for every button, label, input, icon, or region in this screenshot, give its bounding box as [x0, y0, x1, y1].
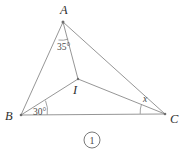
vertex-dot-c: [164, 113, 167, 116]
vertex-label-b: B: [5, 109, 13, 123]
geometry-figure: A B C I 35° 30° x 1: [0, 0, 186, 156]
angle-label-a: 35°: [57, 42, 71, 52]
angle-label-b: 30°: [33, 107, 47, 117]
angle-arc-c: [140, 104, 141, 114]
caption-number: 1: [90, 135, 95, 146]
segment-ac: [63, 22, 165, 114]
angle-label-c: x: [142, 94, 148, 104]
vertex-label-c: C: [170, 112, 179, 126]
vertex-dot-a: [62, 21, 65, 24]
segment-ab: [21, 22, 63, 115]
vertex-label-i: I: [72, 83, 78, 97]
vertex-dot-i: [77, 78, 79, 80]
vertex-dot-b: [20, 114, 23, 117]
angle-arc-a: [59, 39, 69, 40]
segment-ic: [78, 79, 165, 114]
vertex-label-a: A: [59, 3, 68, 17]
geometry-canvas: A B C I 35° 30° x 1: [0, 0, 186, 156]
